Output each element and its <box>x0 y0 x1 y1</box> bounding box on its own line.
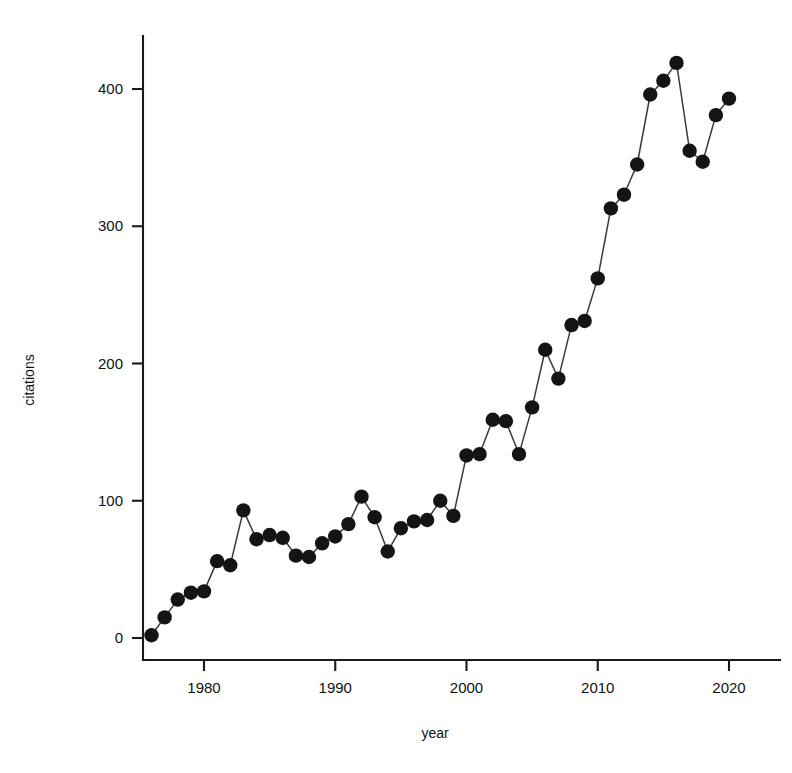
data-point <box>538 343 552 357</box>
data-point <box>184 586 198 600</box>
data-point <box>682 144 696 158</box>
data-point <box>696 155 710 169</box>
y-tick-label: 400 <box>98 80 123 97</box>
data-point <box>302 550 316 564</box>
data-point <box>341 517 355 531</box>
data-point <box>262 528 276 542</box>
data-point <box>315 536 329 550</box>
data-point <box>499 414 513 428</box>
y-tick-label: 100 <box>98 492 123 509</box>
data-point <box>591 271 605 285</box>
data-point <box>354 489 368 503</box>
data-point <box>512 447 526 461</box>
data-point <box>197 584 211 598</box>
y-tick-label: 300 <box>98 217 123 234</box>
data-point <box>171 592 185 606</box>
y-tick-label: 200 <box>98 355 123 372</box>
data-point <box>525 400 539 414</box>
data-point <box>472 447 486 461</box>
data-point <box>630 157 644 171</box>
y-axis-title: citations <box>21 354 37 405</box>
data-point <box>577 314 591 328</box>
x-tick-label: 2010 <box>581 679 614 696</box>
x-tick-label: 1980 <box>187 679 220 696</box>
data-point <box>157 610 171 624</box>
data-point <box>210 554 224 568</box>
data-point <box>564 318 578 332</box>
data-point <box>604 201 618 215</box>
data-point <box>394 521 408 535</box>
x-axis-title: year <box>421 725 449 741</box>
data-point <box>223 558 237 572</box>
x-tick-label: 2020 <box>712 679 745 696</box>
data-point <box>407 514 421 528</box>
data-point <box>433 494 447 508</box>
x-tick-label: 2000 <box>450 679 483 696</box>
data-point <box>643 87 657 101</box>
data-point <box>551 371 565 385</box>
data-point <box>459 448 473 462</box>
data-point <box>446 509 460 523</box>
data-point <box>236 503 250 517</box>
data-point <box>669 56 683 70</box>
data-point <box>381 544 395 558</box>
data-point <box>367 510 381 524</box>
data-point <box>249 532 263 546</box>
data-point <box>289 548 303 562</box>
data-point <box>709 108 723 122</box>
y-tick-label: 0 <box>115 629 123 646</box>
citations-by-year-chart: 0100200300400 citations 1980199020002010… <box>0 0 792 773</box>
data-point <box>486 413 500 427</box>
chart-background <box>0 0 792 773</box>
data-point <box>328 529 342 543</box>
data-point <box>420 513 434 527</box>
data-point <box>656 74 670 88</box>
data-point <box>276 531 290 545</box>
data-point <box>144 628 158 642</box>
data-point <box>617 187 631 201</box>
chart-canvas: 0100200300400 citations 1980199020002010… <box>0 0 792 773</box>
x-tick-label: 1990 <box>319 679 352 696</box>
data-point <box>722 91 736 105</box>
